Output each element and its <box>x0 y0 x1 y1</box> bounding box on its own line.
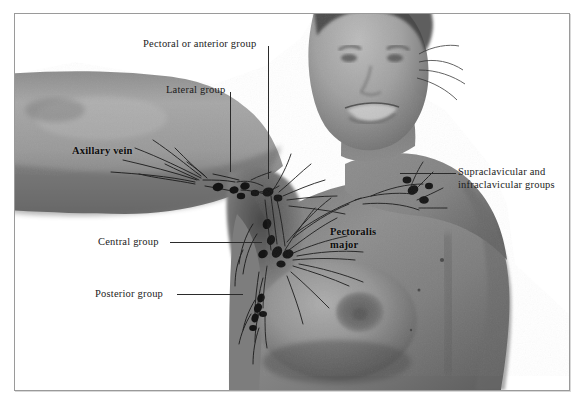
leader-line-posterior-group <box>177 294 243 295</box>
leader-line-supraclavicular-infraclavicular-groups <box>400 173 456 174</box>
label-central-group: Central group <box>98 236 159 249</box>
label-pectoralis-major: Pectoralis major <box>330 226 376 251</box>
node-posterior <box>249 325 257 331</box>
label-line-1: Pectoralis <box>330 226 376 239</box>
label-pectoral-anterior-group: Pectoral or anterior group <box>143 38 256 51</box>
label-lateral-group: Lateral group <box>166 84 225 97</box>
label-line-1: Supraclavicular and <box>458 166 555 179</box>
leader-line-pectoral-anterior-group <box>268 46 269 179</box>
label-supraclavicular-infraclavicular-groups: Supraclavicular and infraclavicular grou… <box>458 166 555 191</box>
label-line-2: major <box>330 239 376 252</box>
node-lateral <box>237 193 245 200</box>
label-line-2: infraclavicular groups <box>458 179 555 192</box>
label-posterior-group: Posterior group <box>95 288 163 301</box>
leader-line-lateral-group <box>230 92 231 172</box>
photograph-grayscale <box>15 14 569 390</box>
label-axillary-vein: Axillary vein <box>72 145 133 158</box>
anatomical-figure: Pectoral or anterior group Lateral group… <box>0 0 584 406</box>
leader-line-central-group <box>170 242 262 243</box>
body-illustration <box>15 14 569 390</box>
